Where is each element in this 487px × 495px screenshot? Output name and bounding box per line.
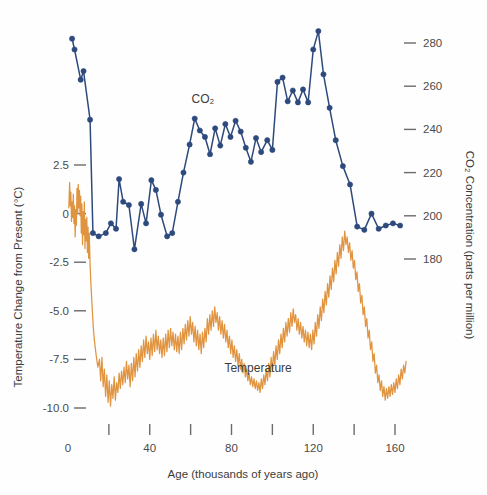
co2-data-point	[165, 234, 170, 239]
right-y-axis-title: CO₂ Concentration (parts per million)	[464, 151, 476, 340]
figure-container: 2.50-2.5-5.0-7.5-10.0 280260240220200180…	[0, 0, 487, 495]
co2-data-point	[158, 212, 163, 217]
co2-data-point	[300, 87, 305, 92]
co2-data-point	[170, 230, 175, 235]
co2-data-point	[213, 126, 218, 131]
right-tick-label: 220	[423, 167, 442, 179]
co2-data-point	[238, 129, 243, 134]
co2-data-point	[390, 221, 395, 226]
left-tick-label: 0	[63, 208, 69, 220]
x-tick-label: 80	[225, 442, 238, 454]
co2-data-point	[87, 117, 92, 122]
co2-data-point	[96, 234, 101, 239]
co2-data-point	[81, 68, 86, 73]
co2-data-point	[139, 201, 144, 206]
left-y-axis-title: Temperature Change from Present (°C)	[12, 186, 24, 387]
co2-series-label: CO₂	[192, 92, 215, 106]
co2-data-point	[243, 145, 248, 150]
co2-data-point	[369, 211, 374, 216]
co2-data-point	[108, 221, 113, 226]
x-axis-title: Age (thousands of years ago)	[168, 468, 319, 480]
co2-data-point	[228, 134, 233, 139]
left-tick-label: -7.5	[49, 353, 69, 365]
co2-data-point	[347, 182, 352, 187]
right-tick-label: 200	[423, 210, 442, 222]
co2-data-point	[265, 138, 270, 143]
co2-data-point	[197, 128, 202, 133]
chart-background	[0, 0, 487, 495]
co2-data-point	[113, 226, 118, 231]
co2-data-point	[223, 121, 228, 126]
co2-data-point	[248, 159, 253, 164]
co2-data-point	[187, 142, 192, 147]
co2-data-point	[218, 143, 223, 148]
right-tick-label: 260	[423, 80, 442, 92]
co2-data-point	[270, 147, 275, 152]
left-tick-label: -10.0	[43, 402, 69, 414]
left-tick-label: -5.0	[49, 305, 69, 317]
x-tick-label: 120	[304, 442, 323, 454]
co2-data-point	[175, 199, 180, 204]
left-tick-label: -2.5	[49, 256, 69, 268]
co2-data-point	[126, 202, 131, 207]
co2-data-point	[132, 247, 137, 252]
co2-data-point	[72, 47, 77, 52]
co2-data-point	[295, 100, 300, 105]
co2-data-point	[290, 88, 295, 93]
co2-data-point	[153, 187, 158, 192]
co2-data-point	[149, 178, 154, 183]
temperature-series-label: Temperature	[224, 361, 292, 375]
co2-data-point	[116, 176, 121, 181]
co2-data-point	[233, 118, 238, 123]
co2-data-point	[376, 226, 381, 231]
co2-data-point	[355, 224, 360, 229]
co2-data-point	[327, 105, 332, 110]
co2-data-point	[383, 223, 388, 228]
co2-data-point	[181, 170, 186, 175]
co2-data-point	[103, 230, 108, 235]
right-tick-label: 180	[423, 253, 442, 265]
co2-data-point	[121, 199, 126, 204]
co2-data-point	[321, 72, 326, 77]
co2-data-point	[306, 100, 311, 105]
co2-data-point	[362, 227, 367, 232]
right-tick-label: 280	[423, 37, 442, 49]
co2-data-point	[285, 99, 290, 104]
x-tick-label: 160	[385, 442, 404, 454]
x-tick-label: 40	[143, 442, 156, 454]
co2-data-point	[69, 36, 74, 41]
co2-data-point	[192, 116, 197, 121]
co2-data-point	[207, 152, 212, 157]
co2-data-point	[316, 29, 321, 34]
co2-data-point	[202, 134, 207, 139]
co2-data-point	[90, 230, 95, 235]
co2-data-point	[78, 77, 83, 82]
right-tick-label: 240	[423, 123, 442, 135]
co2-data-point	[253, 135, 258, 140]
co2-data-point	[259, 149, 264, 154]
x-tick-label: 0	[65, 442, 71, 454]
chart-svg: 2.50-2.5-5.0-7.5-10.0 280260240220200180…	[0, 0, 487, 495]
co2-data-point	[398, 223, 403, 228]
co2-data-point	[311, 47, 316, 52]
co2-data-point	[275, 79, 280, 84]
co2-data-point	[143, 221, 148, 226]
left-tick-label: 2.5	[53, 159, 69, 171]
co2-data-point	[280, 75, 285, 80]
co2-data-point	[340, 164, 345, 169]
co2-data-point	[333, 138, 338, 143]
